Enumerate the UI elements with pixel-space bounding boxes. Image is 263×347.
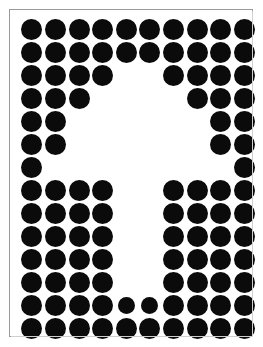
dot-r1-c4: [92, 19, 113, 40]
dot-r2-c4: [92, 42, 113, 63]
dot-r9-c7: [163, 203, 184, 224]
dot-r12-c4: [92, 272, 113, 293]
dot-r14-c10: [234, 318, 255, 339]
dot-r14-c1: [21, 318, 42, 339]
dot-r4-c8: [187, 88, 208, 109]
dot-r3-c1: [21, 65, 42, 86]
dot-r8-c2: [45, 180, 66, 201]
dot-r11-c8: [187, 249, 208, 270]
dot-r10-c4: [92, 226, 113, 247]
dot-r6-c9: [210, 134, 231, 155]
dot-r8-c4: [92, 180, 113, 201]
dot-r14-c6: [139, 318, 160, 339]
dot-r1-c6: [139, 19, 160, 40]
dot-r13-c10: [234, 295, 255, 316]
dot-r2-c5: [116, 42, 137, 63]
dot-r2-c3: [69, 42, 90, 63]
dot-r8-c10: [234, 180, 255, 201]
dot-r12-c7: [163, 272, 184, 293]
dot-r2-c9: [210, 42, 231, 63]
dot-r6-c10: [234, 134, 255, 155]
dot-r8-c7: [163, 180, 184, 201]
dot-r14-c2: [45, 318, 66, 339]
dot-r11-c10: [234, 249, 255, 270]
dot-r14-c5: [116, 318, 137, 339]
dot-r12-c3: [69, 272, 90, 293]
dot-r11-c7: [163, 249, 184, 270]
dot-r12-c2: [45, 272, 66, 293]
dot-r10-c3: [69, 226, 90, 247]
dot-r2-c6: [139, 42, 160, 63]
dot-r11-c3: [69, 249, 90, 270]
dot-r8-c1: [21, 180, 42, 201]
dot-r10-c2: [45, 226, 66, 247]
dot-r5-c9: [210, 111, 231, 132]
dot-r13-c8: [187, 295, 208, 316]
dot-r9-c4: [92, 203, 113, 224]
dot-r4-c2: [45, 88, 66, 109]
dot-r10-c10: [234, 226, 255, 247]
dot-r10-c1: [21, 226, 42, 247]
dot-r4-c9: [210, 88, 231, 109]
dot-r8-c9: [210, 180, 231, 201]
dot-r9-c8: [187, 203, 208, 224]
dot-r11-c9: [210, 249, 231, 270]
dot-r13-c2: [45, 295, 66, 316]
dot-r14-c9: [210, 318, 231, 339]
dot-r10-c8: [187, 226, 208, 247]
dot-r9-c10: [234, 203, 255, 224]
dot-r13-c4: [92, 295, 113, 316]
dot-r12-c10: [234, 272, 255, 293]
dot-r11-c1: [21, 249, 42, 270]
dot-r7-c1: [21, 157, 42, 178]
dot-r2-c8: [187, 42, 208, 63]
dot-r2-c10: [234, 42, 255, 63]
dot-r14-c7: [163, 318, 184, 339]
dot-r5-c1: [21, 111, 42, 132]
dot-r2-c7: [163, 42, 184, 63]
dot-r1-c9: [210, 19, 231, 40]
dot-r5-c10: [234, 111, 255, 132]
dot-r4-c1: [21, 88, 42, 109]
dot-r1-c7: [163, 19, 184, 40]
dot-r1-c10: [234, 19, 255, 40]
dot-r12-c1: [21, 272, 42, 293]
dot-r9-c1: [21, 203, 42, 224]
dot-r7-c10: [234, 157, 255, 178]
dot-r13-c3: [69, 295, 90, 316]
dot-r13-c7: [163, 295, 184, 316]
dot-r2-c1: [21, 42, 42, 63]
dot-r12-c8: [187, 272, 208, 293]
dot-r4-c3: [69, 88, 90, 109]
dot-r13-c6: [141, 297, 158, 314]
dot-r8-c8: [187, 180, 208, 201]
dot-r1-c1: [21, 19, 42, 40]
dot-r11-c4: [92, 249, 113, 270]
dot-r1-c8: [187, 19, 208, 40]
dot-r3-c3: [69, 65, 90, 86]
dot-r14-c3: [69, 318, 90, 339]
dot-r6-c2: [45, 134, 66, 155]
dot-r9-c3: [69, 203, 90, 224]
dot-r9-c9: [210, 203, 231, 224]
dot-r13-c5: [118, 297, 135, 314]
dot-r3-c7: [163, 65, 184, 86]
dot-r13-c9: [210, 295, 231, 316]
dot-r12-c9: [210, 272, 231, 293]
dot-r3-c8: [187, 65, 208, 86]
dot-r3-c10: [234, 65, 255, 86]
dot-r5-c2: [45, 111, 66, 132]
dot-r11-c2: [45, 249, 66, 270]
dot-r10-c9: [210, 226, 231, 247]
dot-r3-c4: [92, 65, 113, 86]
dot-r9-c2: [45, 203, 66, 224]
dot-grid: [10, 10, 254, 338]
dot-r4-c10: [234, 88, 255, 109]
figure-canvas: Dot matrix negative-space figure A recta…: [0, 0, 263, 347]
dot-r6-c1: [21, 134, 42, 155]
dot-r14-c4: [92, 318, 113, 339]
dot-r1-c3: [69, 19, 90, 40]
dot-r3-c2: [45, 65, 66, 86]
dot-r14-c8: [187, 318, 208, 339]
dot-r13-c1: [21, 295, 42, 316]
